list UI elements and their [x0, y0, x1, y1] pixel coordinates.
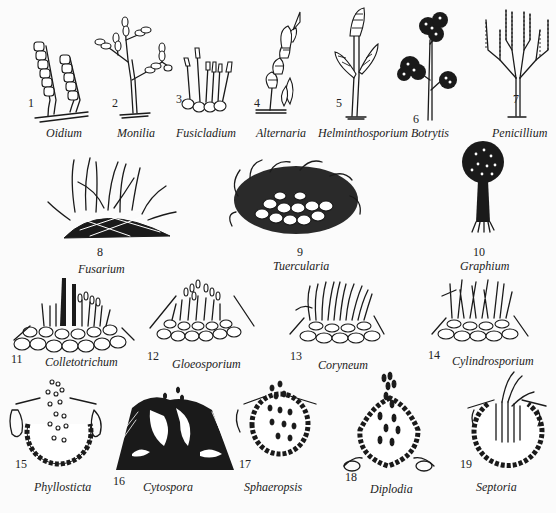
figure-number: 19 [460, 457, 472, 472]
genus-label: Septoria [476, 480, 517, 495]
septoria-illustration [0, 0, 556, 513]
